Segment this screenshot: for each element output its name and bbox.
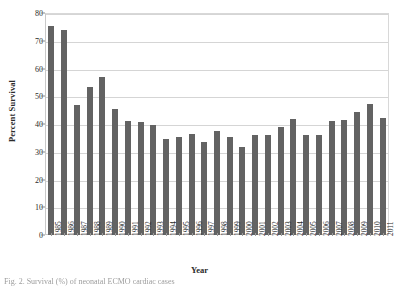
bar (278, 127, 284, 235)
bar (125, 121, 131, 235)
x-tick-mark (344, 233, 345, 236)
bar (74, 105, 80, 235)
x-tick-label: 1990 (118, 221, 127, 236)
x-tick-label: 1985 (54, 221, 63, 236)
x-axis-label: Year (0, 265, 399, 275)
x-tick-label: 2011 (386, 222, 395, 236)
x-tick-label: 2002 (271, 221, 280, 236)
x-tick-label: 1991 (131, 221, 140, 236)
bar (87, 87, 93, 235)
y-axis-label: Percent Survival (7, 61, 17, 161)
x-tick-mark (319, 233, 320, 236)
x-tick-mark (281, 233, 282, 236)
x-tick-mark (242, 233, 243, 236)
bar (138, 122, 144, 235)
x-tick-label: 2009 (360, 221, 369, 236)
bar (367, 104, 373, 235)
x-tick-label: 2003 (284, 221, 293, 236)
x-axis-ticks: 1985198619871988198919901991199219931994… (45, 236, 389, 266)
x-tick-mark (192, 233, 193, 236)
x-tick-label: 1986 (67, 221, 76, 236)
x-tick-mark (255, 233, 256, 236)
x-tick-mark (128, 233, 129, 236)
x-tick-mark (77, 233, 78, 236)
bar (189, 134, 195, 235)
x-tick-mark (383, 233, 384, 236)
y-tick-label: 0 (17, 231, 43, 240)
bar (99, 77, 105, 235)
x-tick-mark (332, 233, 333, 236)
x-tick-label: 1997 (207, 221, 216, 236)
x-tick-label: 1998 (220, 221, 229, 236)
x-tick-mark (179, 233, 180, 236)
bar (214, 131, 220, 235)
x-tick-mark (306, 233, 307, 236)
x-tick-mark (64, 233, 65, 236)
x-tick-mark (115, 233, 116, 236)
bar-chart: Percent Survival 01020304050607080 19851… (0, 0, 399, 268)
figure-container: Percent Survival 01020304050607080 19851… (0, 0, 399, 287)
x-tick-mark (204, 233, 205, 236)
x-tick-mark (102, 233, 103, 236)
x-tick-label: 1989 (105, 221, 114, 236)
y-tick-label: 40 (17, 120, 43, 129)
x-tick-label: 2006 (322, 221, 331, 236)
x-tick-mark (230, 233, 231, 236)
bar (341, 120, 347, 235)
x-tick-label: 1993 (156, 221, 165, 236)
x-tick-label: 1988 (93, 221, 102, 236)
bar (354, 112, 360, 235)
x-tick-label: 1992 (144, 221, 153, 236)
x-tick-label: 2004 (296, 221, 305, 236)
x-tick-label: 2008 (347, 221, 356, 236)
bar (61, 30, 67, 235)
y-tick-label: 80 (17, 9, 43, 18)
bar (48, 26, 54, 236)
x-tick-label: 2001 (258, 221, 267, 236)
x-tick-mark (141, 233, 142, 236)
bar (150, 125, 156, 235)
x-tick-label: 1994 (169, 221, 178, 236)
x-tick-mark (268, 233, 269, 236)
bar (329, 121, 335, 235)
bar (290, 119, 296, 235)
x-tick-label: 2010 (373, 221, 382, 236)
y-tick-label: 70 (17, 36, 43, 45)
x-tick-label: 1995 (182, 221, 191, 236)
x-tick-mark (90, 233, 91, 236)
bar (252, 135, 258, 235)
y-tick-label: 60 (17, 64, 43, 73)
x-tick-mark (293, 233, 294, 236)
x-tick-label: 2005 (309, 221, 318, 236)
x-tick-label: 2007 (335, 221, 344, 236)
figure-caption: Fig. 2. Survival (%) of neonatal ECMO ca… (4, 277, 394, 286)
x-tick-mark (370, 233, 371, 236)
y-tick-label: 20 (17, 175, 43, 184)
bar (380, 118, 386, 235)
y-tick-label: 10 (17, 203, 43, 212)
y-tick-label: 50 (17, 92, 43, 101)
x-tick-mark (217, 233, 218, 236)
x-tick-mark (153, 233, 154, 236)
bar-series (45, 13, 389, 235)
x-tick-label: 1996 (195, 221, 204, 236)
x-tick-label: 1999 (233, 221, 242, 236)
bar (112, 109, 118, 235)
x-tick-mark (51, 233, 52, 236)
y-tick-label: 30 (17, 147, 43, 156)
x-tick-mark (357, 233, 358, 236)
x-tick-label: 2000 (245, 221, 254, 236)
x-tick-label: 1987 (80, 221, 89, 236)
x-tick-mark (166, 233, 167, 236)
